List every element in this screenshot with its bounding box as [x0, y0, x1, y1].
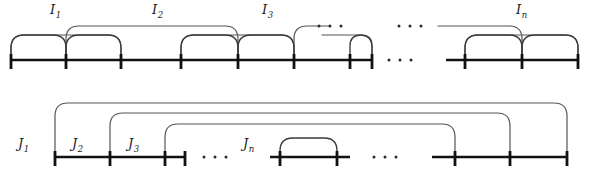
bottom-row-group [55, 103, 567, 166]
top-arc-low-6 [465, 35, 522, 60]
label-subscript: 3 [134, 144, 139, 154]
top-row-label-i1: I1 [49, 2, 61, 20]
ellipsis-dot-3 [410, 59, 413, 62]
label-subscript: n [249, 144, 254, 154]
top-row-label-in: In [515, 2, 527, 20]
top-arc-low-4 [238, 35, 294, 60]
ellipsis-dot-3 [225, 156, 228, 159]
label-subscript: 2 [157, 10, 163, 20]
ellipsis-dot-2 [409, 25, 412, 28]
top-row-label-i2: I2 [151, 2, 163, 20]
figure-container: I1I2I3InJ1J2J3Jn [0, 0, 589, 181]
ellipsis-dot-3 [340, 25, 343, 28]
top-row-label-i3: I3 [261, 2, 273, 20]
ellipsis-dot-3 [420, 25, 423, 28]
top-row-ellipsis-baseline [388, 59, 413, 62]
top-arc-low-7 [522, 35, 578, 60]
ellipsis-dot-3 [395, 156, 398, 159]
label-subscript: 3 [268, 10, 273, 20]
bottom-row-label-jn: Jn [240, 136, 254, 154]
bottom-row-label-j1: J1 [15, 136, 29, 154]
label-base: J [125, 136, 134, 151]
ellipsis-dot-2 [214, 156, 217, 159]
ellipsis-dot-1 [388, 59, 391, 62]
label-subscript: 1 [56, 10, 61, 20]
ellipsis-dot-2 [399, 59, 402, 62]
bottom-row-ellipsis-baseline-right [373, 156, 398, 159]
label-base: J [69, 136, 78, 151]
ellipsis-dot-1 [318, 25, 321, 28]
top-row-ellipsis-upper-right [398, 25, 423, 28]
top-arc-low-1 [11, 35, 66, 60]
top-arc-low-3 [181, 35, 238, 60]
ellipsis-dot-1 [373, 156, 376, 159]
ellipsis-dot-2 [329, 25, 332, 28]
label-base: J [15, 136, 24, 151]
bottom-row-label-j3: J3 [125, 136, 139, 154]
bottom-arc-nested-2 [110, 113, 510, 157]
top-arc-low-2 [66, 35, 121, 60]
ellipsis-dot-1 [203, 156, 206, 159]
top-row-group [11, 26, 578, 69]
label-subscript: n [522, 10, 527, 20]
top-arc-high-6 [438, 26, 522, 60]
ellipsis-dot-2 [384, 156, 387, 159]
bottom-row-ellipsis-baseline-left [203, 156, 228, 159]
bottom-arc-nested-3 [165, 124, 455, 157]
label-subscript: 1 [24, 144, 29, 154]
label-base: J [240, 136, 249, 151]
top-arc-high-4 [294, 26, 330, 60]
bottom-arc-low-jn [280, 138, 337, 157]
ellipsis-dot-1 [398, 25, 401, 28]
top-arc-high-5 [322, 35, 372, 60]
label-subscript: 2 [77, 144, 83, 154]
interval-nesting-diagram: I1I2I3InJ1J2J3Jn [0, 0, 589, 181]
bottom-row-label-j2: J2 [69, 136, 83, 154]
top-arc-high-2 [66, 26, 238, 60]
